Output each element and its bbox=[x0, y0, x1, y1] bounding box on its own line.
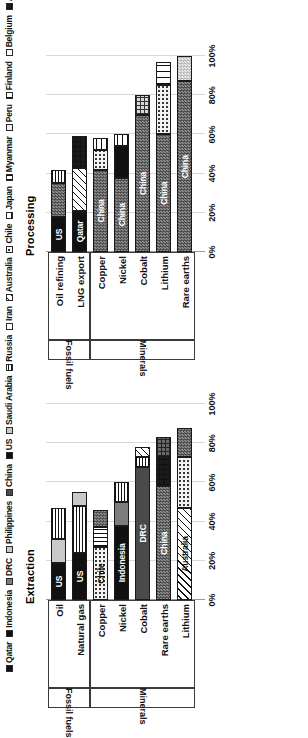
category-label: LNG export bbox=[74, 256, 85, 308]
axis-tick-label: 100% bbox=[207, 44, 217, 67]
bar-segment-label: Indonesia bbox=[117, 543, 126, 582]
bar-segment-label: China bbox=[138, 172, 147, 195]
category-label: Rare earths bbox=[158, 604, 169, 656]
bar-segment: China bbox=[114, 178, 129, 252]
bar-segment bbox=[114, 482, 129, 502]
axis-tick-label: 80% bbox=[207, 86, 217, 104]
bar-segment: China bbox=[156, 486, 171, 600]
bar-segment bbox=[135, 447, 150, 457]
panel-title: Extraction bbox=[24, 549, 36, 604]
bar-segment: Chile bbox=[93, 547, 108, 600]
bar-segment-label: China bbox=[117, 203, 126, 226]
bar-segment-label: Chile bbox=[96, 563, 105, 583]
bar-segment bbox=[114, 134, 129, 146]
category-label: Rare earths bbox=[179, 256, 190, 308]
bar-stack: China bbox=[135, 56, 150, 252]
axis-tick-label: 40% bbox=[207, 513, 217, 531]
axis-tick-label: 60% bbox=[207, 125, 217, 143]
category-label: Natural gas bbox=[74, 604, 85, 656]
chart-panel-extraction: ExtractionUSUSChileIndonesiaDRCChinaAust… bbox=[0, 348, 308, 696]
bar-segment-label: China bbox=[96, 199, 105, 222]
category-label: Cobalt bbox=[137, 604, 148, 634]
bar-segment: China bbox=[93, 170, 108, 252]
bar-stack: US bbox=[51, 404, 66, 600]
bar-segment: US bbox=[51, 563, 66, 600]
bar-segment bbox=[114, 146, 129, 177]
axis-tick-label: 20% bbox=[207, 204, 217, 222]
bar-segment bbox=[93, 528, 108, 548]
bar-segment bbox=[93, 510, 108, 528]
axis-tick-label: 0% bbox=[207, 593, 217, 606]
axis-tick-label: 20% bbox=[207, 552, 217, 570]
category-label: Copper bbox=[95, 604, 106, 637]
bar-segment: DRC bbox=[135, 467, 150, 600]
axis-tick-label: 0% bbox=[207, 245, 217, 258]
bar-segment-label: China bbox=[180, 155, 189, 178]
panel-title: Processing bbox=[24, 196, 36, 256]
bar-segment-label: Qatar bbox=[75, 221, 84, 243]
category-label: Oil bbox=[53, 604, 64, 617]
group-label: Minerals bbox=[138, 688, 148, 708]
bar-segment bbox=[93, 150, 108, 170]
bar-stack: China bbox=[177, 56, 192, 252]
bar-segment bbox=[72, 492, 87, 506]
bar-stack: US bbox=[51, 56, 66, 252]
category-label: Nickel bbox=[116, 256, 127, 284]
group-label: Fossil fuels bbox=[64, 688, 74, 708]
bar-stack: China bbox=[156, 404, 171, 600]
bar-segment bbox=[72, 136, 87, 167]
bar-segment: Qatar bbox=[72, 211, 87, 252]
bar-segment-label: US bbox=[54, 576, 63, 588]
category-label: Oil refining bbox=[53, 256, 64, 306]
category-label: Lithium bbox=[158, 256, 169, 290]
axis-tick-label: 100% bbox=[207, 392, 217, 415]
bar-segment: China bbox=[177, 81, 192, 252]
bar-segment bbox=[93, 138, 108, 150]
bar-stack: Indonesia bbox=[114, 404, 129, 600]
bar-segment: US bbox=[51, 217, 66, 252]
bar-segment-label: US bbox=[75, 571, 84, 583]
bar-segment: US bbox=[72, 553, 87, 600]
axis-tick-labels: 0%20%40%60%80%100% bbox=[207, 404, 221, 600]
group-label: Minerals bbox=[138, 340, 148, 360]
bar-segment-label: US bbox=[54, 229, 63, 241]
bar-segment: China bbox=[135, 115, 150, 252]
bar-segment bbox=[114, 502, 129, 526]
bar-stack: DRC bbox=[135, 404, 150, 600]
bar-segment bbox=[135, 457, 150, 467]
bar-segment-label: China bbox=[159, 182, 168, 205]
bar-segment bbox=[156, 85, 171, 134]
bar-segment-label: Australia bbox=[180, 536, 189, 571]
bar-stack: China bbox=[114, 56, 129, 252]
bar-segment bbox=[177, 428, 192, 457]
axis-tick-label: 60% bbox=[207, 473, 217, 491]
bar-stack: Australia bbox=[177, 404, 192, 600]
bar-stack: China bbox=[93, 56, 108, 252]
category-label: Lithium bbox=[179, 604, 190, 638]
bar-segment bbox=[177, 457, 192, 508]
bar-stack: China bbox=[156, 56, 171, 252]
bar-segment bbox=[51, 170, 66, 184]
chart-panel-processing: ProcessingUSQatarChinaChinaChinaChinaChi… bbox=[0, 0, 308, 348]
bar-segment: Australia bbox=[177, 508, 192, 600]
category-label: Cobalt bbox=[137, 256, 148, 286]
group-label: Fossil fuels bbox=[64, 340, 74, 360]
bar-stack: US bbox=[72, 404, 87, 600]
axis-tick-label: 40% bbox=[207, 165, 217, 183]
bar-segment bbox=[72, 506, 87, 553]
bar-segment bbox=[51, 183, 66, 216]
bar-segment bbox=[177, 56, 192, 81]
category-label: Copper bbox=[95, 256, 106, 289]
bar-segment bbox=[156, 437, 171, 457]
bar-segment bbox=[156, 62, 171, 86]
axis-tick-label: 80% bbox=[207, 434, 217, 452]
bar-segment-label: China bbox=[159, 532, 168, 555]
axis-tick-labels: 0%20%40%60%80%100% bbox=[207, 56, 221, 252]
bar-segment bbox=[51, 508, 66, 539]
bar-stack: Chile bbox=[93, 404, 108, 600]
bar-segment bbox=[51, 539, 66, 563]
bar-segment: China bbox=[156, 134, 171, 252]
bar-segment bbox=[156, 457, 171, 486]
